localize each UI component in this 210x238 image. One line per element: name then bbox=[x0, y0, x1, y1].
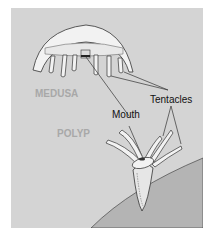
medusa-tentacle bbox=[72, 55, 77, 71]
medusa-illustration bbox=[33, 25, 133, 77]
medusa-tentacle bbox=[61, 55, 67, 77]
polyp-label: POLYP bbox=[57, 128, 90, 139]
diagram-panel: MEDUSA POLYP Mouth Tentacles bbox=[11, 8, 203, 228]
medusa-tentacle bbox=[94, 55, 98, 75]
medusa-tentacle bbox=[49, 56, 55, 73]
tentacles-label: Tentacles bbox=[150, 94, 192, 105]
medusa-tentacle bbox=[118, 58, 123, 73]
diagram-svg bbox=[11, 8, 203, 228]
medusa-label: MEDUSA bbox=[35, 88, 78, 99]
medusa-mouth bbox=[81, 55, 90, 57]
leader-line-tentacles-polyp-2 bbox=[171, 106, 181, 144]
polyp-mouth bbox=[139, 158, 145, 161]
medusa-tentacle bbox=[107, 56, 111, 77]
mouth-label: Mouth bbox=[112, 109, 140, 120]
